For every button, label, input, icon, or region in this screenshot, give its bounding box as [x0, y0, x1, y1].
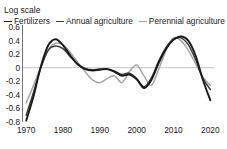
- series-line-annual-agriculture: [26, 37, 210, 115]
- y-tick-label: 0.6: [8, 22, 20, 32]
- plot-area: 0.60.40.20-0.2-0.4-0.6-0.8 1970198019902…: [0, 0, 227, 149]
- y-tick-label: 0.4: [8, 36, 20, 46]
- chart-canvas: 0.60.40.20-0.2-0.4-0.6-0.8 1970198019902…: [0, 0, 227, 149]
- x-tick-label: 2020: [201, 125, 220, 135]
- x-axis-tick-labels: 197019801990200020102020: [17, 125, 220, 135]
- x-tick-label: 1990: [91, 125, 110, 135]
- y-tick-label: -0.2: [6, 76, 21, 86]
- chart-figure: Log scale Fertilizers Annual agriculture…: [0, 0, 227, 149]
- y-tick-label: 0: [15, 63, 20, 73]
- x-tick-label: 1970: [17, 125, 36, 135]
- series-line-perennial-agriculture: [26, 37, 210, 103]
- x-tick-label: 1980: [54, 125, 73, 135]
- x-tick-label: 2010: [164, 125, 183, 135]
- y-tick-label: -0.6: [6, 103, 21, 113]
- y-tick-label: -0.4: [6, 90, 21, 100]
- y-tick-label: 0.2: [8, 49, 20, 59]
- x-tick-label: 2000: [127, 125, 146, 135]
- data-series: [26, 36, 210, 120]
- y-axis-tick-labels: 0.60.40.20-0.2-0.4-0.6-0.8: [6, 22, 21, 127]
